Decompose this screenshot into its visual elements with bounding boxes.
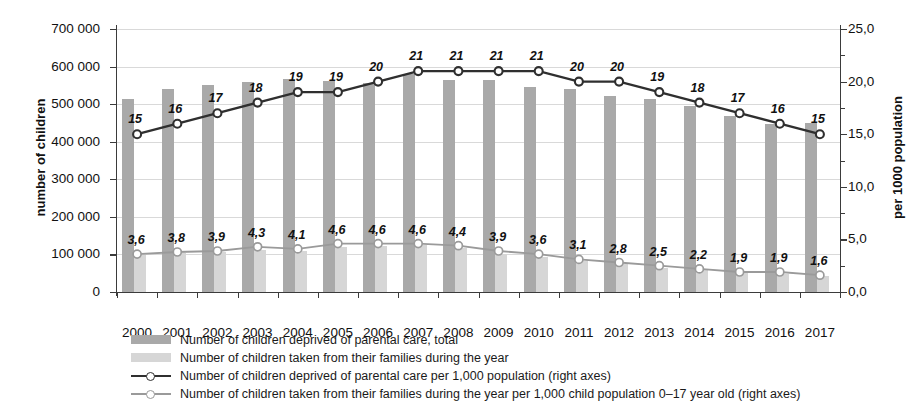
- data-label-rate-taken: 4,4: [449, 225, 466, 239]
- y-tick-mark-right-minor: [841, 161, 845, 162]
- y-tick-mark-right: [841, 239, 847, 240]
- y-tick-label-right: 10,0: [848, 180, 908, 194]
- y-tick-label-left: 0: [26, 285, 100, 299]
- data-label-rate-total: 21: [490, 49, 504, 63]
- data-label-rate-taken: 2,2: [690, 248, 707, 262]
- data-point-marker: [254, 99, 262, 107]
- data-label-rate-taken: 4,6: [328, 223, 345, 237]
- data-point-marker: [294, 88, 302, 96]
- data-label-rate-total: 15: [128, 112, 142, 126]
- data-label-rate-taken: 1,9: [770, 251, 787, 265]
- y-tick-label-right: 0,0: [848, 285, 908, 299]
- data-point-marker: [133, 130, 141, 138]
- data-label-rate-taken: 3,1: [569, 238, 586, 252]
- legend-item[interactable]: Number of children taken from their fami…: [129, 385, 919, 402]
- data-label-rate-total: 17: [731, 91, 745, 105]
- axis-bottom: [116, 292, 842, 293]
- data-label-rate-taken: 2,5: [650, 245, 667, 259]
- data-label-rate-taken: 3,6: [529, 233, 546, 247]
- legend-label: Number of children deprived of parental …: [180, 369, 611, 383]
- line-rate-taken: [137, 244, 820, 276]
- data-point-marker: [173, 120, 181, 128]
- data-label-rate-taken: 3,9: [208, 230, 225, 244]
- y-tick-label-right: 25,0: [848, 22, 908, 36]
- data-point-marker: [213, 109, 221, 117]
- y-tick-label-left: 500 000: [26, 97, 100, 111]
- data-point-marker: [615, 259, 623, 267]
- data-point-marker: [575, 255, 583, 263]
- data-point-marker: [414, 67, 422, 75]
- y-tick-mark-right: [841, 187, 847, 188]
- y-tick-mark-right: [841, 134, 847, 135]
- data-label-rate-total: 19: [289, 70, 303, 84]
- axis-left: [116, 25, 117, 296]
- legend-swatch-icon: [129, 351, 173, 364]
- legend-label: Number of children deprived of parental …: [180, 333, 458, 347]
- data-label-rate-total: 21: [449, 49, 463, 63]
- y-tick-label-right: 5,0: [848, 232, 908, 246]
- legend-item[interactable]: Number of children taken from their fami…: [129, 349, 919, 366]
- data-label-rate-taken: 2,8: [609, 242, 626, 256]
- data-label-rate-total: 21: [530, 49, 544, 63]
- data-label-rate-total: 18: [249, 81, 263, 95]
- legend-label: Number of children taken from their fami…: [180, 351, 509, 365]
- legend-color-box: [131, 353, 171, 362]
- data-label-rate-total: 19: [329, 70, 343, 84]
- data-point-marker: [374, 240, 382, 248]
- data-point-marker: [334, 88, 342, 96]
- data-label-rate-taken: 3,9: [489, 230, 506, 244]
- legend-item[interactable]: Number of children deprived of parental …: [129, 367, 919, 384]
- y-tick-label-left: 100 000: [26, 247, 100, 261]
- data-point-marker: [254, 243, 262, 251]
- data-point-marker: [454, 67, 462, 75]
- data-point-marker: [776, 268, 784, 276]
- data-point-marker: [655, 262, 663, 270]
- data-point-marker: [816, 271, 824, 279]
- data-point-marker: [294, 245, 302, 253]
- data-point-marker: [776, 120, 784, 128]
- y-tick-mark-right: [841, 82, 847, 83]
- y-tick-label-left: 400 000: [26, 135, 100, 149]
- data-point-marker: [736, 109, 744, 117]
- data-point-marker: [535, 67, 543, 75]
- data-label-rate-taken: 4,1: [288, 228, 305, 242]
- y-tick-label-right: 15,0: [848, 127, 908, 141]
- data-label-rate-taken: 4,3: [248, 226, 265, 240]
- y-tick-label-left: 300 000: [26, 172, 100, 186]
- data-point-marker: [816, 130, 824, 138]
- legend-item[interactable]: Number of children deprived of parental …: [129, 331, 919, 348]
- data-label-rate-total: 21: [409, 49, 423, 63]
- data-label-rate-total: 20: [570, 60, 584, 74]
- data-point-marker: [695, 265, 703, 273]
- legend-line-icon: [129, 369, 173, 382]
- y-axis-ticks-left: 0100 000200 000300 000400 000500 000600 …: [26, 0, 100, 420]
- data-point-marker: [495, 67, 503, 75]
- data-point-marker: [695, 99, 703, 107]
- y-tick-mark-right-minor: [841, 55, 845, 56]
- data-label-rate-total: 19: [650, 70, 664, 84]
- data-point-marker: [495, 247, 503, 255]
- data-point-marker: [535, 250, 543, 258]
- y-tick-label-left: 600 000: [26, 60, 100, 74]
- legend-marker-circle-icon: [146, 390, 155, 399]
- y-tick-mark-right-minor: [841, 266, 845, 267]
- data-label-rate-taken: 4,6: [408, 223, 425, 237]
- data-point-marker: [454, 242, 462, 250]
- y-tick-label-left: 700 000: [26, 22, 100, 36]
- chart-legend: Number of children deprived of parental …: [129, 331, 919, 403]
- data-label-rate-taken: 3,8: [168, 231, 185, 245]
- data-point-marker: [173, 248, 181, 256]
- data-label-rate-total: 16: [771, 102, 785, 116]
- data-label-rate-total: 16: [168, 102, 182, 116]
- data-point-marker: [615, 78, 623, 86]
- data-point-marker: [334, 240, 342, 248]
- data-label-rate-total: 20: [610, 60, 624, 74]
- data-point-marker: [575, 78, 583, 86]
- legend-label: Number of children taken from their fami…: [180, 387, 800, 401]
- y-tick-mark-right: [841, 29, 847, 30]
- data-point-marker: [374, 78, 382, 86]
- legend-swatch-icon: [129, 333, 173, 346]
- data-point-marker: [414, 240, 422, 248]
- plot-area: 1516171819192021212121202019181716153,63…: [117, 29, 840, 292]
- y-tick-label-right: 20,0: [848, 75, 908, 89]
